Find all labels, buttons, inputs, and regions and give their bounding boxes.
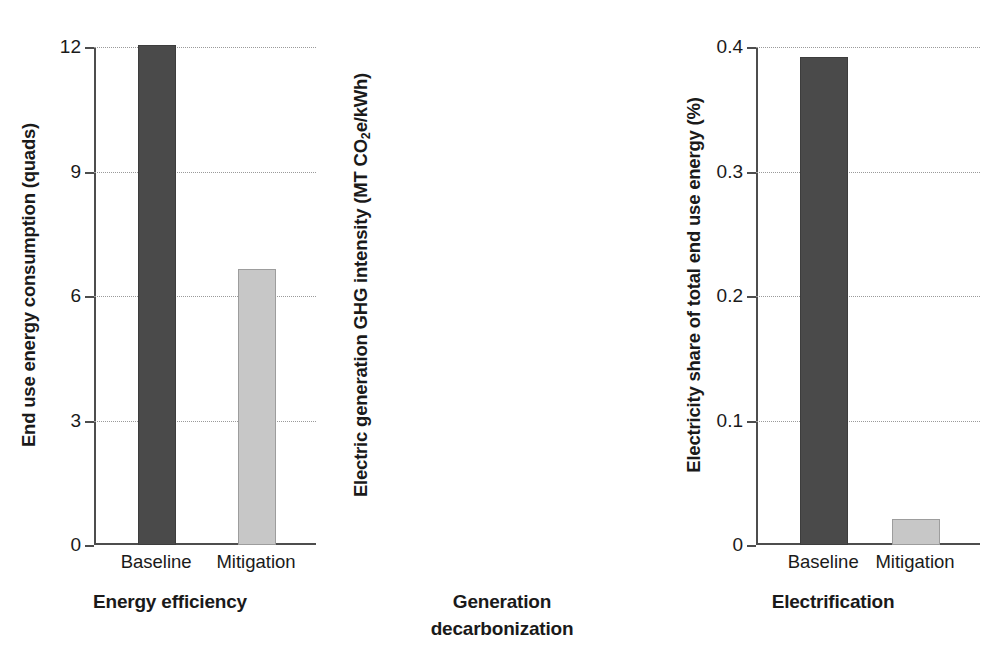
gridline xyxy=(94,421,316,422)
y-axis-title: End use energy consumption (quads) xyxy=(14,25,44,545)
x-axis-title: Energy efficiency xyxy=(0,588,340,615)
gridline xyxy=(94,172,316,173)
y-axis-title: Electricity share of total end use energ… xyxy=(679,25,709,545)
y-tick-mark xyxy=(85,47,94,49)
x-tick-label: Baseline xyxy=(121,551,192,573)
y-tick-mark xyxy=(85,296,94,298)
y-tick-label: 3 xyxy=(70,410,81,432)
x-axis-line xyxy=(94,543,316,545)
x-axis-title: Electrification xyxy=(665,588,1001,615)
y-tick-mark xyxy=(85,545,94,547)
bar-baseline xyxy=(138,45,176,545)
plot-area: 036912BaselineMitigation xyxy=(94,47,316,545)
y-tick-label: 0 xyxy=(70,534,81,556)
y-tick-mark xyxy=(85,172,94,174)
chart-panel-generation-decarbonization: Electric generation GHG intensity (MT CO… xyxy=(332,0,672,663)
y-tick-label: 12 xyxy=(60,36,81,58)
x-axis-title: Generationdecarbonization xyxy=(332,588,672,642)
x-axis-title-line: Electrification xyxy=(665,588,1001,615)
x-tick-label: Mitigation xyxy=(216,551,295,573)
y-tick-label: 6 xyxy=(70,285,81,307)
chart-panel-energy-efficiency: End use energy consumption (quads)036912… xyxy=(0,0,340,663)
bar-chart-figure: End use energy consumption (quads)036912… xyxy=(0,0,1001,663)
chart-panel-electrification: Electricity share of total end use energ… xyxy=(665,0,1001,663)
bar-mitigation xyxy=(238,269,276,545)
gridline xyxy=(94,296,316,297)
x-axis-title-line: Energy efficiency xyxy=(0,588,340,615)
y-tick-mark xyxy=(85,421,94,423)
y-tick-label: 9 xyxy=(70,161,81,183)
gridline xyxy=(94,47,316,48)
x-axis-title-line: decarbonization xyxy=(332,615,672,642)
x-axis-title-line: Generation xyxy=(332,588,672,615)
y-axis-title: Electric generation GHG intensity (MT CO… xyxy=(346,25,376,545)
